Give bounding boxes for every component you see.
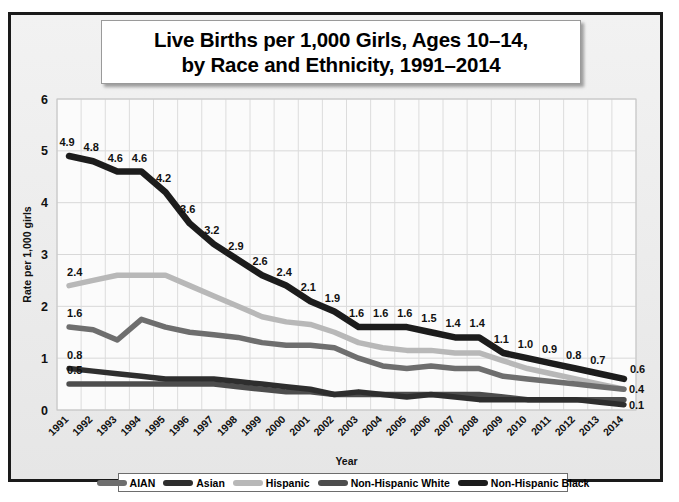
data-label: 1.1	[494, 333, 509, 345]
x-axis-tick-label: 2006	[407, 413, 432, 438]
data-label: 4.8	[84, 141, 99, 153]
x-axis-tick-label: 2004	[359, 413, 384, 438]
data-label: 1.6	[67, 307, 82, 319]
x-axis-tick-label: 2012	[552, 413, 577, 438]
legend-swatch-icon	[163, 480, 193, 486]
y-axis-tick-label: 4	[41, 196, 48, 210]
data-label: 1.5	[421, 312, 436, 324]
data-label: 1.6	[349, 307, 364, 319]
x-axis-tick-label: 1996	[166, 413, 191, 438]
legend-label: AIAN	[130, 477, 156, 489]
data-label: 1.6	[373, 307, 388, 319]
legend-label: Asian	[196, 477, 225, 489]
chart-title-box: Live Births per 1,000 Girls, Ages 10–14,…	[101, 20, 581, 84]
data-label: 0.9	[542, 343, 557, 355]
x-axis-tick-label: 2010	[504, 413, 529, 438]
x-axis-tick-label: 2009	[480, 413, 505, 438]
x-axis-tick-label: 2005	[383, 413, 408, 438]
x-axis-tick-label: 1995	[142, 413, 167, 438]
x-axis-tick-label: 1991	[45, 413, 70, 438]
legend-swatch-icon	[97, 480, 127, 486]
data-label: 4.6	[108, 152, 123, 164]
legend-item-non-hispanic-white[interactable]: Non-Hispanic White	[318, 477, 450, 489]
x-axis-tick-label: 1994	[118, 413, 143, 438]
legend-label: Non-Hispanic Black	[491, 477, 590, 489]
y-axis-tick-label: 6	[41, 93, 48, 107]
line-chart-svg: 0123456Rate per 1,000 girls1991199219931…	[11, 15, 666, 485]
data-label: 1.9	[325, 292, 340, 304]
data-label: 2.4	[277, 266, 293, 278]
legend-label: Non-Hispanic White	[351, 477, 450, 489]
data-label: 2.9	[228, 240, 243, 252]
data-label: 0.5	[67, 364, 82, 376]
x-axis-tick-label: 2000	[263, 413, 288, 438]
data-label: 0.6	[630, 363, 645, 375]
x-axis-tick-label: 2008	[456, 413, 481, 438]
chart-plot-area: 0123456Rate per 1,000 girls1991199219931…	[11, 15, 666, 485]
data-label: 1.0	[518, 338, 533, 350]
legend-item-aian[interactable]: AIAN	[97, 477, 156, 489]
data-label: 3.2	[204, 224, 219, 236]
legend-item-non-hispanic-black[interactable]: Non-Hispanic Black	[458, 477, 590, 489]
x-axis-tick-label: 2007	[431, 413, 456, 438]
y-axis-tick-label: 5	[41, 144, 48, 158]
legend-swatch-icon	[233, 480, 263, 486]
data-label: 2.1	[301, 281, 316, 293]
data-label: 4.2	[156, 172, 171, 184]
x-axis-tick-label: 1999	[238, 413, 263, 438]
data-label: 0.8	[566, 349, 581, 361]
x-axis-tick-label: 1998	[214, 413, 239, 438]
legend-swatch-icon	[318, 480, 348, 486]
data-label: 2.6	[252, 255, 267, 267]
data-label: 1.4	[470, 317, 486, 329]
x-axis-tick-label: 1997	[190, 413, 215, 438]
legend-swatch-icon	[458, 480, 488, 486]
data-label: 0.8	[67, 349, 82, 361]
x-axis-tick-label: 2014	[600, 413, 625, 438]
x-axis-tick-label: 1993	[94, 413, 119, 438]
legend-item-hispanic[interactable]: Hispanic	[233, 477, 310, 489]
y-axis-tick-label: 3	[41, 248, 48, 262]
x-axis-tick-label: 2013	[576, 413, 601, 438]
y-axis-title: Rate per 1,000 girls	[21, 206, 33, 302]
legend-item-asian[interactable]: Asian	[163, 477, 225, 489]
legend-label: Hispanic	[266, 477, 310, 489]
data-label: 0.4	[629, 383, 645, 395]
y-axis-tick-label: 2	[41, 300, 48, 314]
y-axis-tick-label: 1	[41, 352, 48, 366]
chart-frame: 0123456Rate per 1,000 girls1991199219931…	[8, 12, 663, 482]
data-label: 4.9	[59, 136, 74, 148]
chart-legend: AIANAsianHispanicNon-Hispanic WhiteNon-H…	[118, 473, 568, 492]
x-axis-tick-label: 2002	[311, 413, 336, 438]
data-label: 3.6	[180, 203, 195, 215]
x-axis-tick-label: 2001	[287, 413, 312, 438]
data-label: 2.4	[67, 266, 83, 278]
y-axis-tick-label: 0	[41, 404, 48, 418]
x-axis-title: Year	[335, 455, 357, 467]
data-label: 1.6	[397, 307, 412, 319]
x-axis-tick-label: 1992	[70, 413, 95, 438]
data-label: 4.6	[132, 152, 147, 164]
chart-title-line-1: Live Births per 1,000 Girls, Ages 10–14,	[154, 27, 528, 52]
x-axis-tick-label: 2003	[335, 413, 360, 438]
x-axis-tick-label: 2011	[528, 413, 553, 438]
data-label: 0.1	[629, 399, 644, 411]
chart-title-line-2: by Race and Ethnicity, 1991–2014	[181, 52, 500, 77]
data-label: 0.7	[590, 354, 605, 366]
data-label: 1.4	[445, 317, 461, 329]
